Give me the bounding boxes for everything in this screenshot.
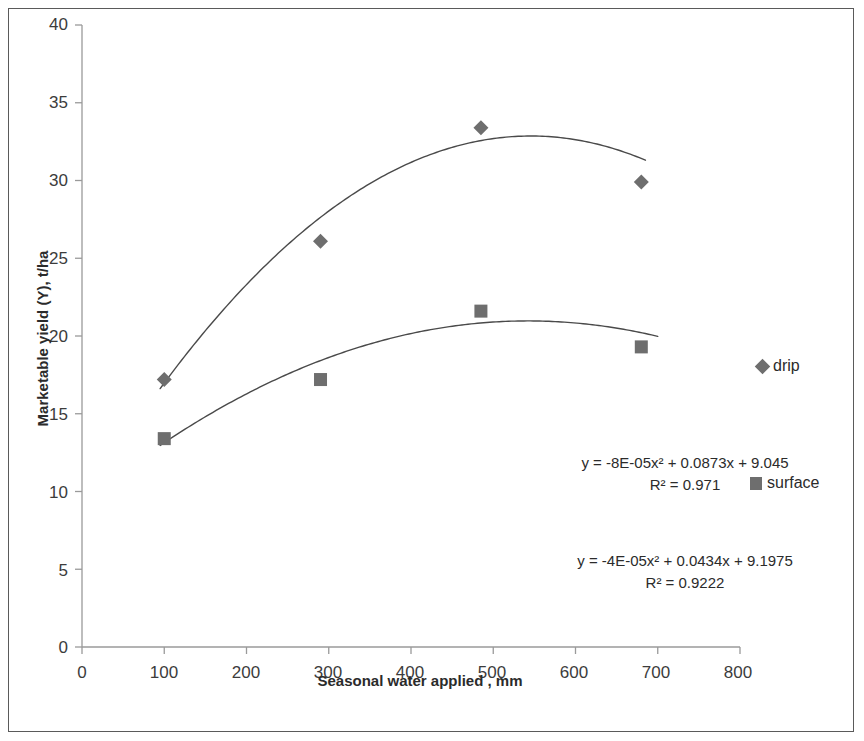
y-tick-label: 30 xyxy=(22,172,68,189)
y-tick-label: 0 xyxy=(22,639,68,656)
y-tick-label: 10 xyxy=(22,484,68,501)
drip-equation-annotation: y = -8E-05x² + 0.0873x + 9.045 R² = 0.97… xyxy=(540,452,830,496)
surface-equation-text: y = -4E-05x² + 0.0434x + 9.1975 xyxy=(540,550,830,572)
figure-frame xyxy=(8,8,854,732)
legend-label-drip: drip xyxy=(773,357,800,375)
x-tick-label: 0 xyxy=(52,664,112,681)
surface-equation-annotation: y = -4E-05x² + 0.0434x + 9.1975 R² = 0.9… xyxy=(540,550,830,594)
y-tick-label: 35 xyxy=(22,94,68,111)
surface-r2-text: R² = 0.9222 xyxy=(540,572,830,594)
legend-item-drip[interactable]: drip xyxy=(757,357,800,375)
y-tick-label: 5 xyxy=(22,562,68,579)
x-axis-title: Seasonal water applied , mm xyxy=(120,672,720,689)
diamond-marker-icon xyxy=(755,358,771,374)
y-tick-label: 40 xyxy=(22,16,68,33)
drip-r2-text: R² = 0.971 xyxy=(540,474,830,496)
y-axis-title: Marketable yield (Y), t/ha xyxy=(34,199,51,479)
drip-equation-text: y = -8E-05x² + 0.0873x + 9.045 xyxy=(540,452,830,474)
